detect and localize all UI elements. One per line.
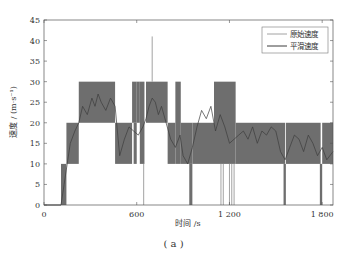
y-axis-title: 速度 / (m·s⁻¹): [8, 86, 18, 138]
raw-speed-band: [132, 82, 137, 123]
y-tick-label: 40: [30, 37, 40, 46]
y-tick-label: 45: [30, 16, 40, 25]
raw-speed-band: [175, 82, 180, 164]
x-tick-label: 1 800: [311, 210, 334, 219]
y-tick-label: 20: [30, 119, 40, 128]
line-chart: 05101520253035404506001 2001 800 原始速度 平滑…: [0, 0, 347, 240]
raw-speed-band: [79, 82, 115, 123]
raw-speed-band: [137, 82, 140, 123]
x-tick-label: 1 200: [218, 210, 241, 219]
legend: 原始速度 平滑速度: [262, 27, 328, 53]
raw-speed-band: [140, 82, 145, 164]
raw-speed-band: [192, 123, 214, 164]
y-tick-label: 5: [35, 180, 40, 189]
plot-area: [44, 36, 333, 205]
raw-speed-band: [181, 123, 193, 164]
y-tick-label: 0: [35, 201, 40, 210]
raw-speed-band: [214, 82, 236, 164]
y-tick-label: 35: [30, 57, 40, 66]
x-axis-title: 时间 /s: [175, 218, 200, 228]
figure-caption: ( a ): [0, 238, 347, 249]
y-tick-label: 15: [30, 139, 40, 148]
x-tick-label: 0: [41, 210, 46, 219]
y-tick-label: 30: [30, 78, 40, 87]
raw-speed-band: [236, 123, 285, 164]
raw-speed-band: [134, 123, 137, 164]
legend-raw-label: 原始速度: [290, 29, 319, 39]
y-tick-label: 10: [30, 160, 40, 169]
raw-speed-band: [284, 164, 286, 205]
raw-speed-band: [168, 123, 176, 164]
x-tick-label: 600: [129, 210, 144, 219]
raw-speed-band: [320, 164, 322, 205]
y-tick-label: 25: [30, 98, 40, 107]
raw-speed-band: [115, 123, 132, 164]
legend-smooth-label: 平滑速度: [290, 41, 319, 51]
raw-speed-band: [189, 164, 192, 205]
